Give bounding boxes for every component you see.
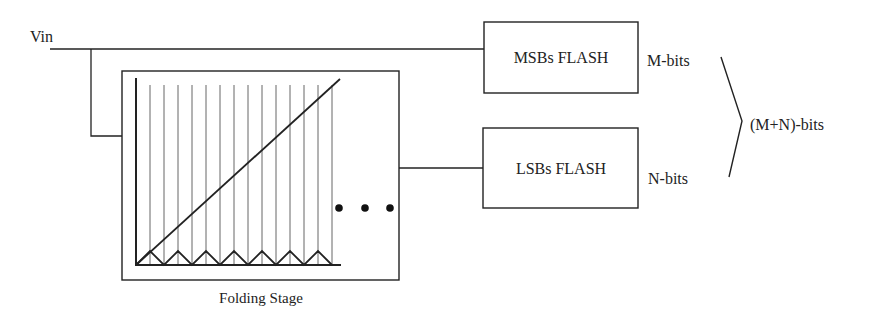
vin-branch-to-folding-stage <box>91 49 122 136</box>
msb-flash-label: MSBs FLASH <box>514 49 609 66</box>
n-bits-label: N-bits <box>648 170 688 187</box>
lsb-flash-block: LSBs FLASH <box>483 128 638 208</box>
folding-stage-label: Folding Stage <box>219 290 303 306</box>
m-bits-label: M-bits <box>647 52 690 69</box>
lsb-flash-label: LSBs FLASH <box>516 160 607 177</box>
msb-flash-block: MSBs FLASH <box>484 22 638 93</box>
combined-output-label: (M+N)-bits <box>750 116 824 134</box>
folding-adc-diagram: Vin <box>0 0 884 319</box>
vin-label: Vin <box>30 28 53 45</box>
input-ramp <box>136 79 340 265</box>
combine-bracket-icon <box>721 57 742 177</box>
continuation-dots-icon <box>335 204 394 212</box>
folding-stage-block: Folding Stage <box>122 71 399 306</box>
